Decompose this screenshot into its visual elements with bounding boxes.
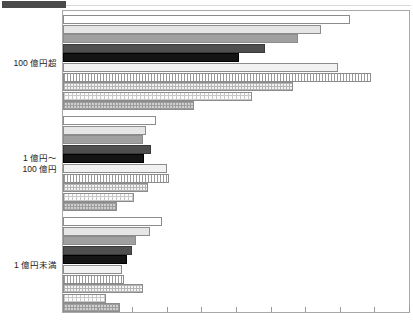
bar-group-0-series-7 [63,73,371,82]
bar-group-2-series-1 [63,217,162,226]
y-axis-category-label-2: 1 億円未満 [14,260,57,271]
bar-group-1-series-5 [63,154,144,163]
bar-group-2-series-2 [63,227,150,236]
bar-group-2-series-3 [63,236,136,245]
header-divider [66,5,411,6]
bar-group-0-series-4 [63,44,265,53]
bar-group-2-series-6 [63,265,122,274]
bar-group-1-series-7 [63,174,169,183]
bar-group-0-series-3 [63,34,298,43]
bar-group-1-series-2 [63,126,146,135]
chart-figure: 100 億円超 1 億円～ 100 億円 1 億円未満 [0,0,413,320]
bar-group-2-series-9 [63,294,106,303]
bar-group-1-series-3 [63,135,143,144]
bar-group-2-series-8 [63,284,143,293]
bar-group-0-series-5 [63,53,239,62]
x-axis-tick-2 [132,307,133,312]
bar-group-1-series-8 [63,183,148,192]
x-axis-tick-9 [374,307,375,312]
bar-group-0-series-1 [63,15,350,24]
bar-group-1-series-1 [63,116,156,125]
cat-0-line1: 100 億円超 [13,58,57,69]
bar-group-0-series-9 [63,92,252,101]
cat-1-line2: 100 億円 [22,164,57,175]
x-axis-tick-1 [98,307,99,312]
bar-group-2-series-10 [63,303,120,312]
x-axis-tick-6 [271,307,272,312]
bar-group-0-series-10 [63,101,194,110]
bar-group-1-series-6 [63,164,167,173]
x-axis-tick-5 [236,307,237,312]
cat-2-line1: 1 億円未満 [14,260,57,271]
bar-group-1-series-9 [63,193,134,202]
y-axis-category-label-1: 1 億円～ 100 億円 [22,153,57,175]
plot-area [63,11,409,312]
bar-group-1-series-10 [63,202,117,211]
bar-group-2-series-7 [63,275,124,284]
bar-group-1-series-4 [63,145,151,154]
bar-group-2-series-5 [63,255,127,264]
bar-group-0-series-8 [63,82,293,91]
x-axis-tick-3 [167,307,168,312]
bar-group-0-series-6 [63,63,338,72]
x-axis-tick-4 [201,307,202,312]
header-tab [2,1,66,8]
cat-1-line1: 1 億円～ [22,153,57,164]
x-axis-tick-10 [409,307,410,312]
x-axis-tick-7 [305,307,306,312]
bar-group-2-series-4 [63,246,132,255]
x-axis-tick-8 [340,307,341,312]
bar-group-0-series-2 [63,25,321,34]
y-axis-category-label-0: 100 億円超 [13,58,57,69]
